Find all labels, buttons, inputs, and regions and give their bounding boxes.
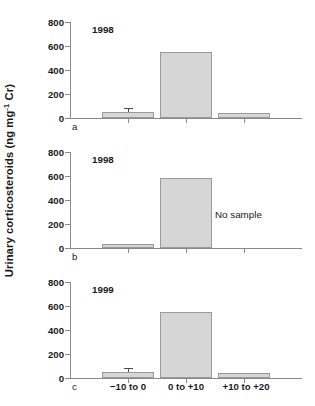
panel-a-ytick-0 bbox=[65, 118, 70, 119]
error-bar-c-1 bbox=[128, 369, 129, 372]
panel-b-no-sample-label: No sample bbox=[215, 210, 262, 220]
panel-a-plot-area bbox=[70, 22, 302, 118]
panel-b-xtick-1 bbox=[128, 249, 129, 253]
panel-c-ytick-0 bbox=[65, 378, 70, 379]
bar-b-2 bbox=[160, 178, 212, 248]
panel-a-xtick-3 bbox=[244, 119, 245, 123]
panel-b-yticklabel-800: 800 bbox=[24, 148, 64, 158]
xticklabel-cat-2: 0 to +10 bbox=[168, 382, 204, 392]
panel-a-yticklabel-600: 600 bbox=[24, 42, 64, 52]
panel-a-letter: a bbox=[72, 122, 77, 132]
panel-b: 800 600 400 200 0 1998 No sample b bbox=[0, 138, 315, 268]
panel-c: 800 600 400 200 0 1999 c bbox=[0, 268, 315, 398]
xticklabel-cat-3: +10 to +20 bbox=[223, 382, 270, 392]
panel-c-yticklabel-600: 600 bbox=[24, 302, 64, 312]
x-axis-tick-labels: −10 to 0 0 to +10 +10 to +20 bbox=[70, 382, 302, 396]
panel-c-yticklabel-0: 0 bbox=[24, 374, 64, 384]
panel-a: 800 600 400 200 0 1998 a bbox=[0, 8, 315, 138]
panel-b-yticklabel-0: 0 bbox=[24, 244, 64, 254]
panel-a-yticklabel-200: 200 bbox=[24, 90, 64, 100]
bar-a-1 bbox=[102, 112, 154, 118]
panel-a-yticklabel-800: 800 bbox=[24, 18, 64, 28]
panel-b-yticklabel-600: 600 bbox=[24, 172, 64, 182]
panel-a-xtick-2 bbox=[186, 119, 187, 123]
bar-c-3 bbox=[218, 373, 270, 378]
panel-c-yticklabel-800: 800 bbox=[24, 278, 64, 288]
bar-a-2 bbox=[160, 52, 212, 118]
error-bar-cap-c-1 bbox=[124, 368, 133, 369]
panel-b-yticklabel-400: 400 bbox=[24, 196, 64, 206]
panel-c-yticklabel-200: 200 bbox=[24, 350, 64, 360]
panel-b-xtick-2 bbox=[186, 249, 187, 253]
bar-b-1 bbox=[102, 244, 154, 248]
panel-b-year-label: 1998 bbox=[92, 155, 114, 165]
panel-c-yticklabel-400: 400 bbox=[24, 326, 64, 336]
panel-b-plot-area bbox=[70, 152, 302, 248]
panel-a-yticklabel-400: 400 bbox=[24, 66, 64, 76]
panel-b-ytick-0 bbox=[65, 248, 70, 249]
error-bar-a-1 bbox=[128, 109, 129, 112]
bar-a-3 bbox=[218, 113, 270, 118]
panel-a-year-label: 1998 bbox=[92, 25, 114, 35]
panel-b-xtick-3 bbox=[244, 249, 245, 253]
bar-c-2 bbox=[160, 312, 212, 378]
bar-c-1 bbox=[102, 372, 154, 378]
panel-a-xtick-1 bbox=[128, 119, 129, 123]
panel-a-yticklabel-0: 0 bbox=[24, 114, 64, 124]
panel-c-year-label: 1999 bbox=[92, 285, 114, 295]
panel-b-letter: b bbox=[72, 252, 77, 262]
xticklabel-cat-1: −10 to 0 bbox=[110, 382, 146, 392]
error-bar-cap-a-1 bbox=[124, 108, 133, 109]
panel-b-yticklabel-200: 200 bbox=[24, 220, 64, 230]
figure-panel-chart: Urinary corticosteroids (ng mg-1 Cr) 800… bbox=[0, 0, 315, 406]
panel-c-plot-area bbox=[70, 282, 302, 378]
